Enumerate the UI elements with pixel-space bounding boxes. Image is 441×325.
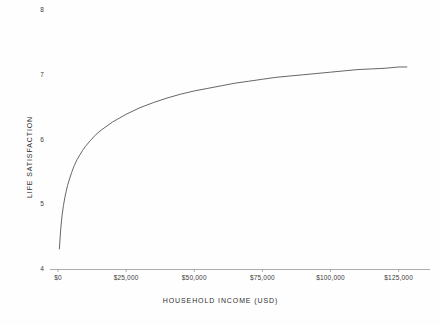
x-tick-label: $0 [28,274,88,281]
x-tick-label: $25,000 [96,274,156,281]
x-axis-tick-marks [58,270,399,273]
x-axis-title: HOUSEHOLD INCOME (USD) [0,297,441,304]
x-tick-label: $50,000 [164,274,224,281]
x-tick-label: $100,000 [301,274,361,281]
y-axis-title: LIFE SATISFACTION [26,116,33,198]
y-tick-label: 5 [30,200,44,207]
y-tick-label: 8 [30,6,44,13]
data-series-line [59,67,406,249]
x-tick-label: $75,000 [232,274,292,281]
y-tick-label: 4 [30,265,44,272]
x-tick-label: $125,000 [369,274,429,281]
y-tick-label: 7 [30,71,44,78]
chart-container: 45678 $0$25,000$50,000$75,000$100,000$12… [0,0,441,325]
